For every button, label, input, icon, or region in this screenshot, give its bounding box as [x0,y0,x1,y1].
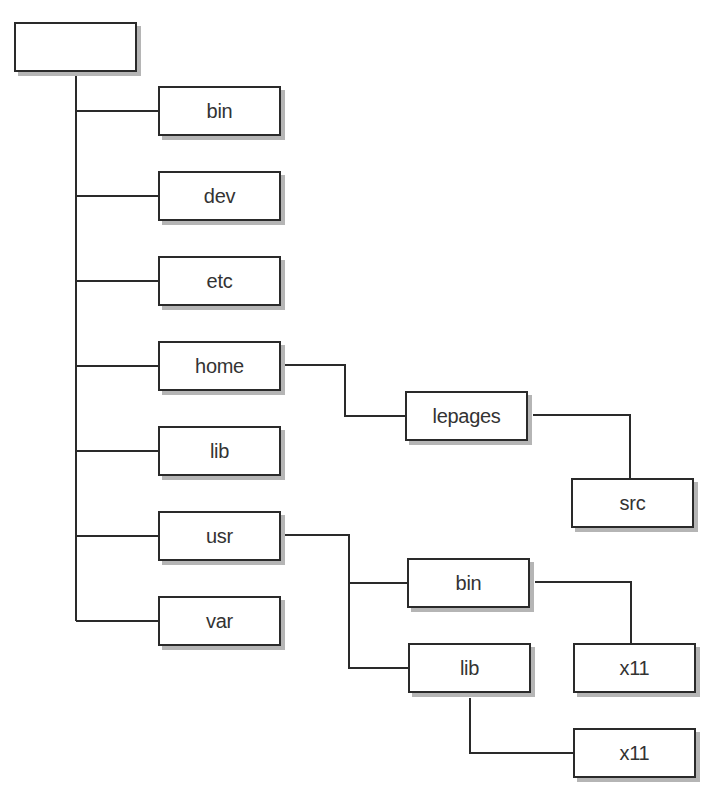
node-bin: bin [158,86,281,136]
node-label: lib [460,657,479,680]
node-root [14,22,137,72]
node-label: usr [206,525,233,548]
node-usr-lib: lib [408,643,531,693]
node-label: x11 [620,742,650,765]
node-label: lepages [433,405,501,428]
node-label: var [206,610,233,633]
node-lib: lib [158,426,281,476]
node-dev: dev [158,171,281,221]
branch-home-lepages [285,365,405,416]
node-label: x11 [620,657,650,680]
node-usr-bin: bin [407,558,530,608]
node-label: src [620,492,646,515]
node-lepages: lepages [405,391,528,441]
node-label: lib [210,440,229,463]
node-usr: usr [158,511,281,561]
node-label: bin [456,572,482,595]
node-label: bin [207,100,233,123]
node-home: home [158,341,281,391]
branch-lepages-src [533,415,630,478]
directory-tree-diagram: bin dev etc home lib usr var lepages src… [0,0,709,796]
node-src: src [571,478,694,528]
node-label: dev [204,185,235,208]
node-bin-x11: x11 [573,643,696,693]
node-etc: etc [158,256,281,306]
branch-bin-x11 [535,582,631,643]
node-label: etc [207,270,233,293]
branch-lib-x11 [470,698,573,753]
node-var: var [158,596,281,646]
node-label: home [195,355,244,378]
node-lib-x11: x11 [573,728,696,778]
branch-usr-children [285,535,408,668]
